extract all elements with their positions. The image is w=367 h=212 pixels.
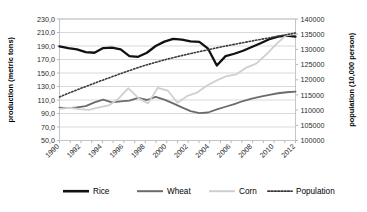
x-axis-tick-label: 1998 (129, 142, 147, 160)
y-axis-right-title: population (10,000 person) (347, 32, 356, 127)
legend-label: Population (296, 187, 335, 196)
y2-axis-tick-label: 140000 (301, 15, 325, 24)
y-axis-left-labels: 50,070,090,0110,0130,0150,0170,0190,0210… (37, 15, 55, 146)
legend-item-corn: Corn (209, 187, 257, 196)
y2-axis-tick-label: 135000 (301, 30, 325, 39)
y-axis-tick-label: 230,0 (37, 15, 55, 24)
y-axis-tick-label: 190,0 (37, 42, 55, 51)
x-axis-tick-label: 2012 (279, 142, 297, 160)
x-axis-tick-label: 1992 (65, 142, 83, 160)
x-axis-tick-label: 2008 (236, 142, 254, 160)
y-axis-tick-label: 110,0 (38, 96, 55, 105)
series-line-corn (60, 34, 296, 110)
x-axis-labels: 1990199219941996199820002002200420062008… (43, 142, 297, 160)
y2-axis-tick-label: 130000 (301, 45, 325, 54)
y2-axis-tick-label: 110000 (301, 106, 324, 115)
y-axis-tick-label: 70,0 (41, 123, 55, 132)
grid-layer (60, 19, 296, 127)
y-axis-tick-label: 130,0 (37, 82, 55, 91)
y2-axis-tick-label: 100000 (301, 136, 325, 145)
chart-container: 50,070,090,0110,0130,0150,0170,0190,0210… (0, 0, 367, 212)
legend-item-wheat: Wheat (137, 187, 191, 196)
chart-legend: RiceWheatCornPopulation (63, 187, 335, 196)
legend-label: Corn (239, 187, 257, 196)
y-axis-right-labels: 1000001050001100001150001200001250001300… (301, 15, 325, 146)
y-axis-tick-label: 150,0 (37, 69, 55, 78)
legend-label: Wheat (167, 187, 191, 196)
line-chart: 50,070,090,0110,0130,0150,0170,0190,0210… (0, 0, 367, 212)
x-axis-tick-label: 1994 (86, 142, 104, 160)
x-axis-tick-label: 2006 (215, 142, 233, 160)
tickmark-layer (57, 19, 298, 143)
y-axis-tick-label: 210,0 (37, 28, 55, 37)
legend-item-population: Population (268, 187, 335, 196)
y2-axis-tick-label: 120000 (301, 75, 325, 84)
x-axis-tick-label: 2002 (172, 142, 190, 160)
y2-axis-tick-label: 115000 (301, 91, 324, 100)
x-axis-tick-label: 2000 (151, 142, 169, 160)
legend-label: Rice (93, 187, 110, 196)
x-axis-tick-label: 2010 (258, 142, 276, 160)
x-axis-tick-label: 2004 (193, 142, 211, 160)
x-axis-tick-label: 1996 (108, 142, 126, 160)
legend-item-rice: Rice (63, 187, 110, 196)
plot-area-border (60, 19, 296, 141)
y-axis-tick-label: 170,0 (37, 55, 55, 64)
y2-axis-tick-label: 125000 (301, 60, 325, 69)
y-axis-left-title: production (metric tons) (6, 37, 15, 123)
y-axis-tick-label: 90,0 (41, 109, 55, 118)
y2-axis-tick-label: 105000 (301, 121, 325, 130)
